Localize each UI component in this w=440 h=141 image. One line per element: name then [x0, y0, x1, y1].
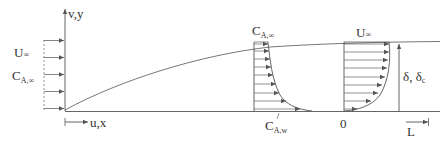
velocity-top-label: U∞: [356, 25, 371, 40]
inlet-concentration-label: CA,∞: [12, 68, 34, 85]
velocity-origin-label: 0: [340, 116, 347, 131]
x-axis-label: u,x: [90, 115, 107, 130]
inlet-velocity-label: U∞: [14, 45, 29, 60]
concentration-wall-label: CA,w: [265, 118, 287, 135]
x-axis: u,x: [65, 115, 107, 130]
y-axis: v,y: [65, 6, 84, 111]
inlet-uniform-profile: [44, 40, 64, 110]
length-label: L: [407, 124, 415, 139]
velocity-profile: [344, 42, 390, 111]
boundary-layer-diagram: v,y u,x U∞ CA,∞ CA,∞: [0, 0, 440, 141]
concentration-top-label: CA,∞: [252, 23, 274, 40]
y-axis-label: v,y: [68, 6, 84, 21]
concentration-profile: [254, 42, 312, 119]
thickness-label: δ, δc: [403, 69, 426, 85]
